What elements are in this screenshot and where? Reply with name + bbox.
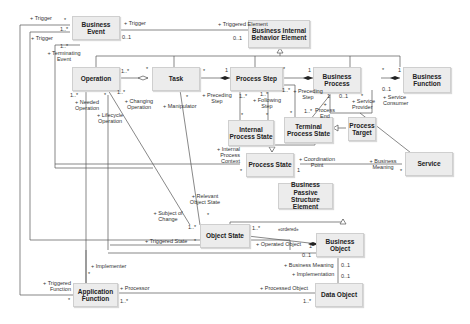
multiplicity: 1..* [60, 26, 68, 32]
class-process-state[interactable]: Process State [246, 153, 294, 177]
multiplicity: 1..* [239, 93, 247, 99]
role-label: + Business Meaning [366, 158, 400, 170]
multiplicity: * [290, 110, 292, 116]
class-label: Business Function [404, 73, 450, 88]
class-label: Task [169, 75, 183, 82]
class-label: Business Process [314, 73, 360, 88]
role-label: + Implementation [292, 271, 334, 277]
class-label: Terminal Process State [285, 123, 332, 138]
multiplicity: 1 [398, 67, 401, 73]
class-label: Process Target [349, 122, 375, 137]
role-label: + Process End [313, 101, 337, 119]
multiplicity: * [88, 271, 90, 277]
class-object-state[interactable]: Object State [200, 224, 250, 248]
role-label: + Internal Process Context [206, 146, 240, 164]
multiplicity: * [186, 94, 188, 100]
multiplicity: * [283, 66, 285, 72]
class-label: Object State [206, 232, 244, 239]
multiplicity: 1..* [117, 89, 125, 95]
multiplicity: 1 [327, 93, 330, 99]
class-business-function[interactable]: Business Function [403, 67, 451, 93]
multiplicity: * [400, 168, 402, 174]
multiplicity: 1..* [252, 225, 260, 231]
multiplicity: * [266, 112, 268, 118]
role-label: + Preceding Step [200, 92, 234, 104]
role-label: + Processor [120, 285, 150, 291]
class-label: Business Object [317, 238, 363, 253]
class-process-target[interactable]: Process Target [348, 117, 376, 141]
class-process-step[interactable]: Process Step [230, 67, 283, 91]
class-task[interactable]: Task [152, 67, 200, 91]
multiplicity: 1..* [188, 224, 196, 230]
class-label: Process State [249, 161, 292, 168]
class-label: Data Object [321, 291, 357, 298]
role-label: + Relevant Object State [186, 193, 224, 205]
multiplicity: 1 [308, 67, 311, 73]
role-label: + Trigger [31, 35, 53, 41]
role-label: + Trigger [30, 15, 52, 21]
multiplicity: 0..1 [122, 34, 131, 40]
class-label: Business Passive Structure Element [279, 181, 332, 211]
multiplicity: 0..1 [302, 252, 311, 258]
multiplicity: 0..1 [382, 86, 391, 92]
class-business-object[interactable]: Business Object [316, 233, 364, 257]
multiplicity: 1..* [282, 87, 290, 93]
role-label: + Processed Object [260, 285, 308, 291]
multiplicity: 0..1 [339, 93, 348, 99]
multiplicity: 0..1 [341, 273, 350, 279]
multiplicity: * [146, 66, 148, 72]
role-label: + Following Step [250, 97, 284, 109]
class-label: Process Step [236, 75, 277, 82]
class-operation[interactable]: Operation [72, 67, 120, 91]
class-label: Application Function [74, 288, 117, 303]
multiplicity: 0..1 [233, 35, 242, 41]
multiplicity: * [382, 67, 384, 73]
class-internal-process-state[interactable]: Internal Process State [228, 120, 274, 146]
multiplicity: * [203, 68, 205, 74]
multiplicity: * [240, 168, 242, 174]
class-business-event[interactable]: Business Event [72, 16, 120, 40]
role-label: + Subject of Change [152, 210, 184, 222]
multiplicity: * [241, 112, 243, 118]
role-label: + Manipulator [163, 103, 196, 109]
role-label: + Lifecycle Operation [93, 112, 127, 124]
role-label: + Triggered State [145, 238, 187, 244]
role-label: + Terminating Event [44, 50, 84, 62]
role-label: + Coordination Point [296, 156, 338, 168]
multiplicity: 1 [225, 67, 228, 73]
role-label: + Triggered Function [38, 280, 71, 292]
class-label: Internal Process State [229, 126, 273, 141]
class-label: Service [417, 160, 440, 167]
role-label: + Trigger [124, 20, 146, 26]
role-label: + Preceding Step [291, 88, 325, 100]
multiplicity: * [64, 17, 66, 23]
role-label: + Service Consumer [383, 94, 417, 106]
role-label: + Implementer [91, 263, 126, 269]
class-label: Business Internal Behavior Element [249, 27, 309, 42]
role-label: + Service Provider [352, 98, 376, 110]
stereotype-label: «ordered» [278, 228, 299, 233]
multiplicity: 1..* [70, 92, 78, 98]
role-label: + Operated Object [256, 241, 301, 247]
multiplicity: * [104, 92, 106, 98]
class-label: Business Event [73, 21, 119, 36]
role-label: + Needed Operation [70, 99, 104, 111]
role-label: + Triggered Element [218, 21, 268, 27]
class-terminal-process-state[interactable]: Terminal Process State [284, 117, 333, 143]
role-label: + Changing Operation [122, 98, 156, 110]
multiplicity: 1 [309, 243, 312, 249]
multiplicity: * [207, 212, 209, 218]
class-business-passive-structure-element[interactable]: Business Passive Structure Element [278, 183, 333, 209]
role-label: + Business Meaning [284, 262, 334, 268]
class-data-object[interactable]: Data Object [315, 283, 363, 307]
multiplicity: * [68, 297, 70, 303]
multiplicity: 0..1 [341, 262, 350, 268]
multiplicity: 1..* [120, 298, 128, 304]
class-application-function[interactable]: Application Function [73, 283, 118, 307]
multiplicity: 1..* [303, 298, 311, 304]
uml-diagram-canvas: Business Event Business Internal Behavio… [0, 0, 470, 324]
multiplicity: * [194, 238, 196, 244]
class-service[interactable]: Service [405, 152, 453, 176]
multiplicity: 1..* [60, 43, 68, 49]
multiplicity: 1..* [304, 108, 312, 114]
